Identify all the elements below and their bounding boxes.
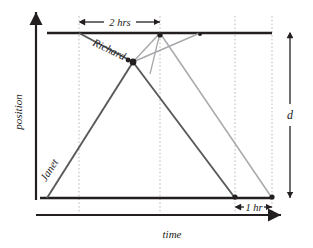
secondary-path-c [133,33,200,62]
position-time-diagram: 2 hrs 1 hr d time position Richard Janet [0,0,313,248]
one-hour-label: 1 hr [245,202,263,213]
janet-label: Janet [38,156,61,183]
marker-bottom-right-end [269,194,274,199]
markers-group [126,32,275,200]
secondary-paths-group [133,33,272,198]
richard-return-path [133,62,235,198]
two-hours-label: 2 hrs [109,17,130,28]
marker-top-mid [157,32,162,37]
marker-crossing-point-aux [126,58,131,63]
position-axis-label: position [12,94,24,131]
boundary-lines-group [40,33,272,198]
time-axis-label: time [163,228,182,240]
richard-label: Richard [90,36,128,63]
two-hours-annotation: 2 hrs [80,17,160,28]
janet-outbound-path [47,62,133,198]
marker-top-right [198,32,202,36]
diagram-canvas: 2 hrs 1 hr d time position Richard Janet [0,0,313,248]
distance-annotation: d [287,33,294,198]
one-hour-annotation: 1 hr [236,202,272,213]
marker-crossing-point [130,59,137,66]
distance-label: d [287,108,294,122]
marker-bottom-left-end [232,194,237,199]
axes-group [36,12,281,215]
